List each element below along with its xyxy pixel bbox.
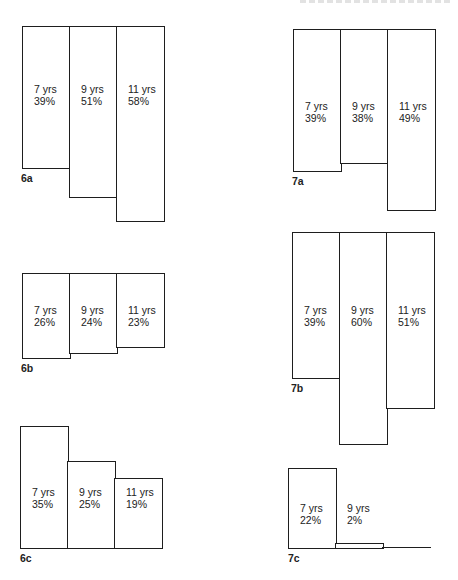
bar-value-label: 39% (34, 95, 57, 107)
bar-value-label: 49% (399, 112, 427, 124)
bar-category-label: 7 yrs (34, 83, 57, 95)
bar-category-label: 11 yrs (128, 304, 156, 316)
bar-7a-2 (340, 29, 389, 164)
bar-value-label: 26% (34, 316, 57, 328)
bar-category-label: 11 yrs (398, 304, 426, 316)
bar-value-label: 39% (304, 316, 327, 328)
chart-id-label: 6c (20, 552, 32, 564)
chart-id-label: 6b (21, 362, 33, 374)
bar-category-label: 9 yrs (347, 502, 370, 514)
bar-value-label: 38% (352, 112, 375, 124)
chart-id-label: 6a (21, 172, 33, 184)
bar-6a-3 (116, 26, 165, 222)
bar-category-label: 9 yrs (352, 100, 375, 112)
chart-id-label: 7b (291, 382, 303, 394)
chart-id-label: 7a (292, 175, 304, 187)
bar-value-label: 39% (305, 112, 328, 124)
bar-value-label: 2% (347, 514, 370, 526)
bar-value-label: 22% (300, 514, 323, 526)
bar-value-label: 51% (398, 316, 426, 328)
bar-category-label: 7 yrs (300, 502, 323, 514)
bar-value-label: 60% (351, 316, 374, 328)
bar-category-label: 11 yrs (128, 83, 156, 95)
bar-category-label: 9 yrs (81, 83, 104, 95)
bar-category-label: 9 yrs (81, 304, 104, 316)
bar-value-label: 25% (79, 498, 102, 510)
bar-value-label: 19% (126, 498, 154, 510)
bar-value-label: 24% (81, 316, 104, 328)
bar-6a-2 (69, 26, 118, 198)
bar-category-label: 9 yrs (79, 486, 102, 498)
bar-value-label: 23% (128, 316, 156, 328)
bar-category-label: 7 yrs (34, 304, 57, 316)
bar-category-label: 7 yrs (304, 304, 327, 316)
chart-id-label: 7c (288, 552, 300, 564)
chart-baseline (382, 547, 431, 548)
bar-7b-2 (339, 232, 388, 445)
bar-category-label: 7 yrs (32, 486, 55, 498)
bar-category-label: 11 yrs (126, 486, 154, 498)
bar-category-label: 7 yrs (305, 100, 328, 112)
bar-value-label: 51% (81, 95, 104, 107)
bar-value-label: 58% (128, 95, 156, 107)
bar-category-label: 9 yrs (351, 304, 374, 316)
cropped-header-text (300, 0, 450, 3)
bar-value-label: 35% (32, 498, 55, 510)
bar-7c-2 (335, 543, 384, 549)
bar-category-label: 11 yrs (399, 100, 427, 112)
